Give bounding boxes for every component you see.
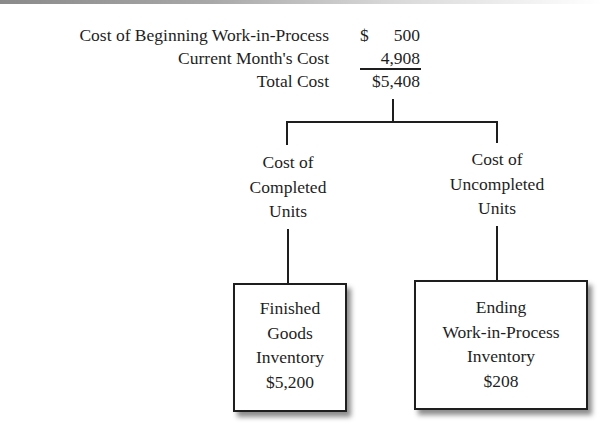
completed-units-label: Cost of Completed Units [228, 150, 348, 224]
box-line: Goods [235, 321, 345, 346]
cost-row-current-month: Current Month's Cost 4,908 [0, 47, 603, 69]
label-line: Units [427, 196, 567, 221]
box-line: Work-in-Process [416, 320, 586, 345]
box-line: Finished [235, 296, 345, 321]
finished-goods-inventory-box: Finished Goods Inventory $5,200 [233, 283, 347, 412]
cost-row-value: $ 500 [360, 24, 420, 46]
label-line: Cost of [228, 150, 348, 175]
label-line: Completed [228, 175, 348, 200]
connector-right-drop [496, 121, 498, 143]
cost-row-total: Total Cost $5,408 [0, 70, 603, 92]
amount: 500 [394, 24, 420, 46]
connector-left-to-box [287, 229, 289, 284]
label-line: Uncompleted [427, 172, 567, 197]
top-gradient-bar [0, 0, 603, 4]
ending-wip-inventory-box: Ending Work-in-Process Inventory $208 [414, 280, 588, 410]
label-line: Cost of [427, 147, 567, 172]
connector-crossbar [286, 121, 498, 123]
connector-left-drop [286, 121, 288, 145]
currency-symbol: $ [360, 24, 369, 46]
cost-row-label: Current Month's Cost [178, 47, 329, 69]
box-line: Ending [416, 295, 586, 320]
cost-row-value: $5,408 [360, 70, 420, 92]
box-value: $208 [416, 369, 586, 394]
cost-row-value: 4,908 [360, 47, 420, 69]
connector-stem [392, 99, 394, 123]
box-value: $5,200 [235, 370, 345, 395]
label-line: Units [228, 199, 348, 224]
uncompleted-units-label: Cost of Uncompleted Units [427, 147, 567, 221]
connector-right-to-box [496, 226, 498, 281]
cost-row-label: Cost of Beginning Work-in-Process [79, 24, 329, 46]
box-line: Inventory [416, 344, 586, 369]
cost-row-beginning-wip: Cost of Beginning Work-in-Process $ 500 [0, 24, 603, 46]
cost-row-label: Total Cost [257, 70, 329, 92]
box-line: Inventory [235, 345, 345, 370]
